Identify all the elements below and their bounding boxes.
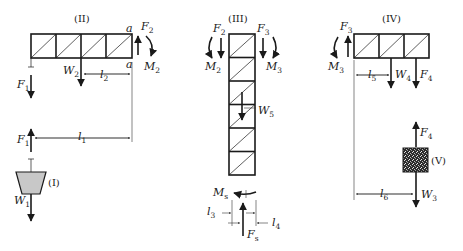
- component-III: (III) F2 M2 F3: [204, 13, 282, 243]
- label-F4-IV: F4: [419, 68, 433, 83]
- label-W5: W5: [258, 104, 274, 119]
- component-I: F1 (I) W1: [14, 129, 60, 221]
- label-l1: l1: [78, 130, 86, 145]
- moment-Ms-arrow: [234, 190, 256, 198]
- crane-free-body-diagram: (II) a a F1 W2 l2: [0, 0, 463, 251]
- label-F1-I: F1: [16, 133, 29, 148]
- label-F2-III: F2: [212, 22, 226, 37]
- dimension-l4: [246, 200, 268, 226]
- label-W2: W2: [63, 64, 79, 79]
- truss-II: [31, 34, 132, 58]
- counterweight-block: [403, 148, 428, 172]
- label-W3: W3: [421, 188, 437, 203]
- moment-M2-arrow: [146, 36, 152, 56]
- label-IV: (IV): [382, 13, 401, 24]
- label-M3-IV: M3: [327, 60, 344, 75]
- component-II: (II) a a F1 W2 l2: [16, 13, 160, 142]
- label-W1: W1: [14, 194, 30, 209]
- label-l5: l5: [368, 68, 377, 83]
- label-M2-III: M2: [204, 60, 221, 75]
- moment-M3-IV-arrow: [334, 37, 338, 58]
- label-II: (II): [74, 13, 90, 24]
- label-F3-III: F3: [256, 22, 270, 37]
- point-a-top: a: [126, 22, 133, 35]
- component-V: F4 (V) W3 l6: [356, 122, 446, 207]
- label-F3-IV: F3: [339, 20, 353, 35]
- label-l6: l6: [380, 187, 389, 202]
- label-Ms: Ms: [212, 186, 228, 201]
- label-l4: l4: [272, 216, 281, 231]
- truss-IV: [354, 34, 429, 58]
- label-l3: l3: [207, 205, 216, 220]
- label-I: (I): [48, 177, 60, 188]
- moment-M3-III-arrow: [273, 37, 276, 58]
- label-l2: l2: [100, 68, 109, 83]
- label-M2-II: M2: [143, 60, 160, 75]
- label-Fs: Fs: [246, 228, 259, 243]
- label-M3-III: M3: [265, 60, 282, 75]
- force-W5-arrow: [242, 92, 256, 120]
- label-F4-V: F4: [419, 126, 433, 141]
- dimension-l3: [222, 200, 240, 226]
- moment-M2-III-arrow: [209, 37, 212, 58]
- label-V: (V): [431, 155, 446, 166]
- bucket-shape: [16, 172, 46, 194]
- label-III: (III): [228, 13, 248, 24]
- point-a-bottom: a: [126, 58, 133, 71]
- label-F2-II: F2: [140, 20, 154, 35]
- label-F1-II: F1: [16, 78, 29, 93]
- label-W4: W4: [395, 68, 411, 83]
